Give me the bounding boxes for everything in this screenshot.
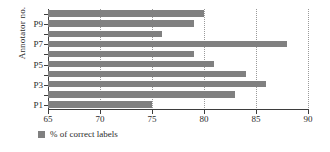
x-tick-label-85: 85 xyxy=(252,114,261,124)
x-tick-label-80: 80 xyxy=(200,114,209,124)
bar-p3 xyxy=(48,81,266,87)
legend: % of correct labels xyxy=(38,129,118,139)
bar-series xyxy=(48,9,308,110)
legend-swatch-icon xyxy=(38,131,45,138)
legend-label: % of correct labels xyxy=(50,129,118,139)
y-tick xyxy=(44,85,48,86)
y-axis-title: Annotator no. xyxy=(15,0,29,83)
y-tick xyxy=(44,95,48,96)
bar-row xyxy=(48,39,308,49)
bar-p1 xyxy=(48,101,152,107)
bar-row xyxy=(48,100,308,110)
x-tick-label-65: 65 xyxy=(44,114,53,124)
bar-p8 xyxy=(48,31,162,37)
y-tick-label-p7: P7 xyxy=(33,39,43,49)
bar-row xyxy=(48,80,308,90)
bar-row xyxy=(48,9,308,19)
y-tick xyxy=(44,54,48,55)
bar-row xyxy=(48,49,308,59)
y-tick-label-p1: P1 xyxy=(33,100,43,110)
y-tick xyxy=(44,34,48,35)
gridline-x xyxy=(308,9,309,110)
bar-p4 xyxy=(48,71,246,77)
bar-p6 xyxy=(48,51,194,57)
plot-area: P1P3P5P7P9 657075808590 xyxy=(48,9,308,110)
bar-chart-figure: Annotator no. P1P3P5P7P9 657075808590 % … xyxy=(0,0,330,152)
y-tick-label-p5: P5 xyxy=(33,60,43,70)
bar-p10 xyxy=(48,10,204,16)
y-tick xyxy=(44,44,48,45)
bar-row xyxy=(48,70,308,80)
bar-row xyxy=(48,60,308,70)
y-tick-label-p9: P9 xyxy=(33,19,43,29)
y-tick xyxy=(44,105,48,106)
x-tick-label-70: 70 xyxy=(96,114,105,124)
bar-row xyxy=(48,90,308,100)
bar-p5 xyxy=(48,61,214,67)
x-tick-label-90: 90 xyxy=(304,114,313,124)
y-tick xyxy=(44,24,48,25)
bar-row xyxy=(48,19,308,29)
bar-p9 xyxy=(48,20,194,26)
bar-p2 xyxy=(48,91,235,97)
bar-row xyxy=(48,29,308,39)
y-tick xyxy=(44,14,48,15)
y-tick xyxy=(44,65,48,66)
x-tick-label-75: 75 xyxy=(148,114,157,124)
y-tick-label-p3: P3 xyxy=(33,80,43,90)
y-tick xyxy=(44,75,48,76)
bar-p7 xyxy=(48,41,287,47)
